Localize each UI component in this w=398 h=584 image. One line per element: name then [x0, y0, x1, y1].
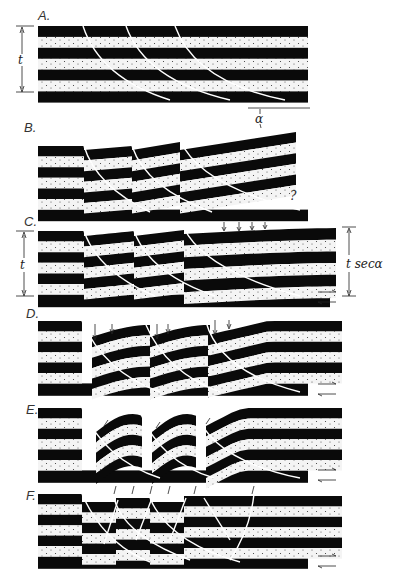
thickness-label: t [18, 53, 23, 67]
sand-bed [38, 525, 82, 536]
panel-label-d: D. [26, 306, 39, 321]
half-arrow-icon [168, 486, 170, 494]
half-arrow-icon [252, 486, 254, 494]
dark-bed [38, 429, 82, 439]
dark-bed [38, 48, 308, 59]
dark-bed [38, 210, 308, 222]
dark-bed [184, 538, 256, 549]
dark-bed [38, 146, 84, 157]
half-arrow-left-icon [318, 566, 336, 568]
panel-f [38, 486, 342, 569]
dark-bed [256, 496, 342, 507]
dark-bed [256, 538, 342, 549]
thickened-label: t secα [346, 257, 383, 271]
dark-bed [38, 363, 82, 373]
sand-bed [82, 533, 116, 544]
sand-bed [38, 373, 82, 383]
dark-bed [38, 273, 84, 284]
dark-bed [116, 498, 150, 509]
panel-label-a: A. [37, 8, 50, 23]
dark-bed [184, 517, 256, 528]
sand-bed [38, 546, 82, 557]
dark-bed [38, 252, 84, 263]
dark-bed [38, 188, 84, 199]
panel-label-b: B. [24, 120, 36, 135]
subsidence-arrows [222, 222, 267, 231]
fault-evolution-diagram: A. B. C. D. E. F. t α ? t [0, 0, 398, 584]
sand-bed [38, 460, 82, 470]
sand-bed [38, 81, 308, 92]
panel-d [38, 320, 342, 399]
angle-alpha-label: α [255, 112, 263, 126]
dark-bed [38, 450, 82, 460]
sand-bed [38, 352, 82, 362]
half-arrow-icon [206, 418, 210, 424]
panel-b: α ? [38, 108, 310, 221]
half-arrow-left-icon [318, 480, 336, 482]
arrow-down-icon [250, 222, 254, 230]
arrow-down-icon [227, 320, 231, 329]
panel-label-c: C. [24, 214, 37, 229]
panel-a: t [16, 26, 308, 103]
dark-bed [38, 515, 82, 526]
dark-bed [38, 231, 84, 242]
arrow-down-icon [263, 222, 267, 229]
arrow-down-icon [222, 222, 226, 231]
sand-bed [256, 527, 342, 538]
sand-bed [256, 506, 342, 517]
sand-bed [38, 504, 82, 515]
dark-bed [38, 321, 82, 331]
sand-bed [38, 242, 84, 253]
sand-bed [116, 550, 150, 561]
sand-bed [38, 178, 84, 189]
panel-c: t t secα [16, 222, 383, 307]
sand-bed [38, 59, 308, 70]
question-mark: ? [290, 189, 297, 203]
dark-bed [38, 91, 308, 102]
sand-bed [38, 284, 84, 295]
half-arrow-icon [150, 486, 152, 494]
dark-bed [82, 544, 116, 555]
sand-bed [38, 439, 82, 449]
arrow-down-icon [237, 222, 241, 231]
dark-bed [38, 536, 82, 547]
dark-bed [38, 342, 82, 352]
half-arrow-left-icon [318, 394, 336, 396]
dark-bed [38, 167, 84, 178]
sand-bed [184, 506, 256, 517]
arrow-down-icon [213, 320, 217, 335]
panel-label-e: E. [26, 402, 38, 417]
dark-bed [38, 494, 82, 505]
sand-bed [38, 418, 82, 428]
sand-bed [38, 37, 308, 48]
thickness-label: t [20, 258, 25, 272]
panel-e [38, 408, 342, 488]
half-arrow-icon [194, 486, 196, 494]
dark-bed [38, 408, 82, 418]
dark-bed [256, 517, 342, 528]
half-arrow-icon [114, 486, 116, 494]
sand-bed [38, 157, 84, 168]
sand-bed [38, 199, 84, 210]
sand-bed [256, 548, 342, 559]
sand-bed [38, 331, 82, 341]
sand-bed [82, 554, 116, 565]
half-arrow-icon [132, 486, 134, 494]
panel-label-f: F. [26, 488, 36, 503]
sand-bed [184, 548, 256, 559]
dark-bed [150, 544, 184, 555]
dark-bed [184, 496, 256, 507]
dark-bed [38, 470, 308, 482]
dark-bed [38, 26, 308, 37]
sand-bed [38, 263, 84, 274]
